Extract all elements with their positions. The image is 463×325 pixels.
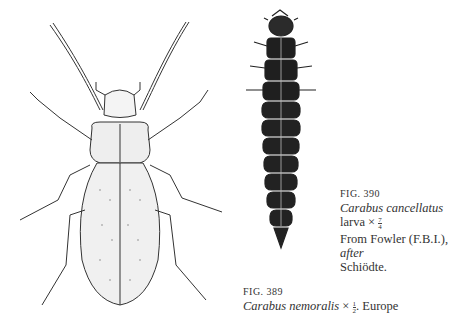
figure-390-title: Carabus cancellatus larva × 7 4 [340,201,463,230]
figure-390-label: FIG. 390 [340,187,463,201]
beetle-illustration [0,0,240,325]
figure-390-species: Carabus cancellatus [340,201,443,215]
figure-390-caption: FIG. 390 Carabus cancellatus larva × 7 4… [340,187,463,274]
larva-illustration [236,8,326,253]
figure-389-label: FIG. 389 [243,285,398,299]
figure-390-stage: larva [340,215,365,229]
figure-389-species: Carabus nemoralis [243,299,339,313]
figure-389-scale-symbol: × [342,299,349,313]
figure-390-scale-symbol: × [368,215,375,229]
figure-390-source: From Fowler (F.B.I.), after Schiödte. [340,232,463,274]
figure-389-title: Carabus nemoralis × 1 2 . Europe [243,299,398,314]
figure-390-scale-fraction: 7 4 [378,217,382,230]
figure-389-caption: FIG. 389 Carabus nemoralis × 1 2 . Europ… [243,285,398,314]
figure-389-region: . Europe [356,299,398,313]
